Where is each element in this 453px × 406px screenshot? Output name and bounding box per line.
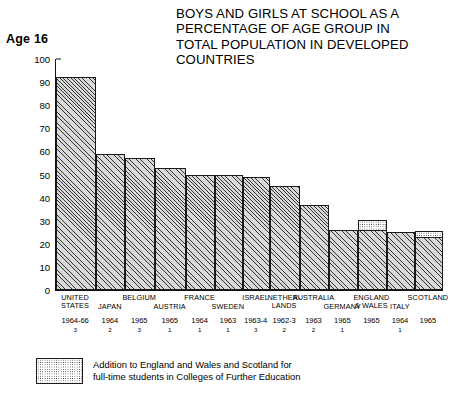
title-line-1: BOYS AND GIRLS AT SCHOOL AS A (176, 6, 444, 21)
y-tick-10: 10 (40, 261, 56, 272)
bar-column[interactable] (96, 59, 125, 290)
bar-column[interactable] (415, 59, 443, 290)
legend-line-2: full-time students in Colleges of Furthe… (93, 371, 300, 383)
age-group-label: Age 16 (6, 32, 48, 46)
plot-area: 0102030405060708090100 (55, 59, 443, 291)
bar-germany[interactable] (329, 230, 358, 290)
bar-column[interactable] (329, 59, 358, 290)
bar-extra-further-education[interactable] (415, 231, 443, 238)
bar-italy[interactable] (387, 232, 415, 290)
legend: Addition to England and Wales and Scotla… (36, 358, 300, 384)
y-tick-90: 90 (40, 77, 56, 88)
y-tick-100: 100 (34, 54, 56, 65)
bar-column[interactable] (215, 59, 243, 290)
x-label-japan: JAPAN (87, 303, 132, 311)
bar-column[interactable] (243, 59, 270, 290)
bar-scotland[interactable] (415, 237, 443, 290)
y-tick-40: 40 (40, 192, 56, 203)
x-label-italy: ITALY (378, 303, 422, 311)
x-label-scotland: SCOTLAND (406, 294, 450, 302)
bar-column[interactable] (387, 59, 415, 290)
title-line-3: TOTAL POPULATION IN DEVELOPED (176, 37, 444, 52)
bar-austria[interactable] (155, 168, 187, 290)
y-tick-60: 60 (40, 146, 56, 157)
bar-france[interactable] (186, 175, 214, 291)
bar-column[interactable] (300, 59, 329, 290)
bar-england---wales[interactable] (358, 230, 387, 290)
bar-column[interactable] (358, 59, 387, 290)
y-tick-30: 30 (40, 215, 56, 226)
x-year-scotland: 1965 (407, 317, 449, 335)
legend-text: Addition to England and Wales and Scotla… (93, 358, 300, 383)
y-tick-80: 80 (40, 100, 56, 111)
bar-belgium[interactable] (125, 158, 154, 290)
bar-column[interactable] (56, 59, 96, 290)
title-line-2: PERCENTAGE OF AGE GROUP IN (176, 21, 444, 36)
bar-extra-further-education[interactable] (358, 220, 387, 232)
y-tick-70: 70 (40, 123, 56, 134)
bar-column[interactable] (270, 59, 300, 290)
legend-line-1: Addition to England and Wales and Scotla… (93, 359, 300, 371)
x-year-footnote (407, 326, 449, 335)
y-tick-50: 50 (40, 169, 56, 180)
legend-swatch-further-education (36, 358, 83, 384)
x-label-austria: AUSTRIA (146, 303, 194, 311)
bar-column[interactable] (125, 59, 154, 290)
bar-nether--lands[interactable] (270, 186, 300, 290)
x-label-sweden: SWEDEN (206, 303, 250, 311)
bar-australia[interactable] (300, 205, 329, 290)
bar-israel[interactable] (243, 177, 270, 290)
bar-group (56, 59, 443, 290)
bar-column[interactable] (155, 59, 187, 290)
y-tick-20: 20 (40, 238, 56, 249)
bar-sweden[interactable] (215, 175, 243, 291)
bar-column[interactable] (186, 59, 214, 290)
bar-united-states[interactable] (56, 77, 96, 290)
bar-japan[interactable] (96, 154, 125, 290)
